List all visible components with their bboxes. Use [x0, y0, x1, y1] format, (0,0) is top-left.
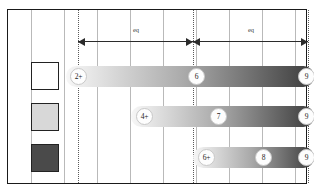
legend-swatch-dark[interactable] [31, 144, 59, 172]
gridline-2 [97, 10, 98, 183]
marker-series-1-2plus[interactable]: 2+ [70, 68, 87, 85]
arrow-label-0: eq [126, 26, 146, 33]
marker-series-2-4plus[interactable]: 4+ [136, 108, 153, 125]
chart-figure: 2+694+796+89 eqeq [0, 0, 314, 195]
arrow-label-1: eq [241, 26, 261, 33]
arrow-head-left-1 [193, 38, 200, 46]
arrow-head-left-0 [78, 38, 85, 46]
legend-swatch-medium[interactable] [31, 103, 59, 131]
marker-series-2-7[interactable]: 7 [210, 108, 227, 125]
marker-series-1-9[interactable]: 9 [298, 68, 314, 85]
marker-series-1-6[interactable]: 6 [188, 68, 205, 85]
marker-series-3-9[interactable]: 9 [298, 149, 314, 166]
gridline-4 [163, 10, 164, 183]
marker-series-2-9[interactable]: 9 [298, 108, 314, 125]
legend-swatch-light[interactable] [31, 62, 59, 90]
arrow-head-right-1 [301, 38, 308, 46]
gridline-1 [64, 10, 65, 183]
marker-series-3-8[interactable]: 8 [255, 149, 272, 166]
marker-series-3-6plus[interactable]: 6+ [198, 149, 215, 166]
arrow-line-1 [193, 41, 308, 42]
arrow-line-0 [78, 41, 193, 42]
reference-line-0 [78, 10, 80, 183]
gridline-3 [130, 10, 131, 183]
arrow-head-right-0 [186, 38, 193, 46]
